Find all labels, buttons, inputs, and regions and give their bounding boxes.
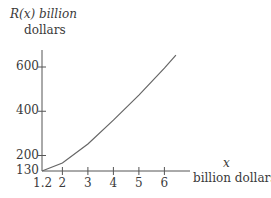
x-tick-label: 6 bbox=[160, 177, 168, 190]
x-tick-label: 2 bbox=[58, 177, 66, 190]
y-axis-label: R(x) billion bbox=[10, 8, 77, 21]
y-tick-label: 200 bbox=[16, 149, 39, 162]
y-axis-label-line1: R(x) billion bbox=[10, 7, 77, 21]
y-tick-label: 600 bbox=[16, 60, 39, 73]
y-tick-label: 400 bbox=[16, 104, 39, 117]
x-axis-label: x bbox=[223, 157, 230, 170]
x-tick-label: 5 bbox=[135, 177, 143, 190]
revenue-curve bbox=[42, 55, 176, 171]
x-tick-label: 4 bbox=[109, 177, 117, 190]
x-axis-label-units: billion dollars bbox=[193, 172, 271, 185]
x-tick-label: 1.2 bbox=[33, 177, 52, 190]
x-tick-label: 3 bbox=[84, 177, 92, 190]
y-axis-label-units: dollars bbox=[24, 24, 66, 37]
